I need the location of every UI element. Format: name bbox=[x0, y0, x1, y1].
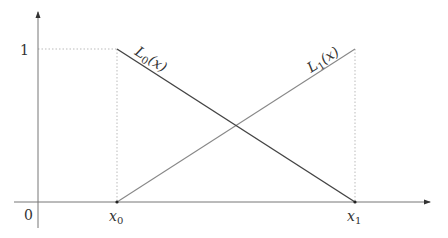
x-tick-x0-main: x bbox=[109, 208, 117, 224]
x-tick-x1-main: x bbox=[347, 208, 355, 224]
x-tick-x0: x0 bbox=[109, 208, 123, 226]
x-tick-x1-sub: 1 bbox=[355, 215, 361, 226]
x-tick-x0-sub: 0 bbox=[117, 215, 123, 226]
node-x1 bbox=[353, 200, 356, 203]
x-tick-0: 0 bbox=[24, 207, 33, 223]
node-x0 bbox=[115, 200, 118, 203]
series-L0-label: L0(x) bbox=[130, 43, 170, 77]
lagrange-basis-diagram: 1 0 x0 x1 L0(x) L1(x) bbox=[0, 0, 448, 238]
guide-lines bbox=[38, 49, 355, 202]
y-tick-1: 1 bbox=[20, 42, 29, 58]
x-tick-x1: x1 bbox=[347, 208, 361, 226]
series-L0-label-arg: (x) bbox=[146, 52, 170, 76]
